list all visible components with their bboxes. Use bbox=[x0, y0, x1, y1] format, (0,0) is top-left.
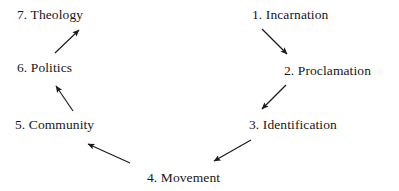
arrow-incarnation-to-proclamation bbox=[262, 29, 287, 54]
node-label-identification: 3. Identification bbox=[249, 117, 337, 133]
node-label-incarnation: 1. Incarnation bbox=[252, 7, 328, 23]
node-label-community: 5. Community bbox=[15, 117, 94, 133]
node-label-politics: 6. Politics bbox=[17, 60, 72, 76]
cycle-diagram: 7. Theology 1. Incarnation 6. Politics 2… bbox=[0, 0, 399, 191]
arrow-layer bbox=[0, 0, 399, 191]
node-label-proclamation: 2. Proclamation bbox=[284, 63, 371, 79]
node-label-theology: 7. Theology bbox=[17, 7, 83, 23]
arrow-politics-to-theology bbox=[55, 30, 79, 53]
arrow-community-to-politics bbox=[56, 86, 73, 111]
node-label-movement: 4. Movement bbox=[147, 170, 220, 186]
arrow-proclamation-to-identification bbox=[262, 85, 286, 109]
arrow-identification-to-movement bbox=[214, 140, 251, 161]
arrow-movement-to-community bbox=[88, 144, 130, 163]
